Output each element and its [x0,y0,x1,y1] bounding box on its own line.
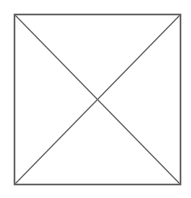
square-diagonals-diagram [0,0,191,198]
diagram-canvas [0,0,191,198]
